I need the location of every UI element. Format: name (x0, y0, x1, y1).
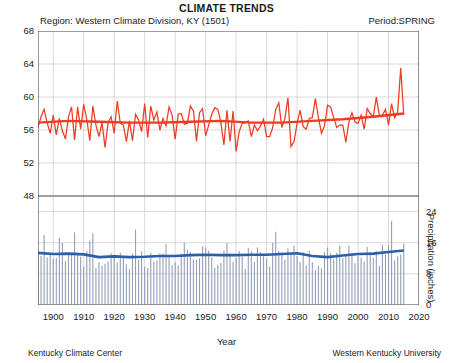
footer-right: Western Kentucky University (333, 348, 442, 358)
x-axis-label: Year (0, 336, 453, 347)
climate-trends-chart (38, 31, 419, 305)
region-label: Region: Western Climate Division, KY (15… (40, 15, 229, 26)
y-tick-precip-16: 16 (426, 237, 450, 248)
y-tick-temp-52: 52 (8, 157, 34, 168)
y-tick-temp-56: 56 (8, 124, 34, 135)
y-tick-precip-8: 8 (426, 268, 450, 279)
footer-left: Kentucky Climate Center (28, 348, 122, 358)
y-tick-precip-24: 24 (426, 206, 450, 217)
y-tick-temp-64: 64 (8, 58, 34, 69)
chart-canvas (38, 31, 419, 305)
y-tick-temp-60: 60 (8, 91, 34, 102)
x-tick-2020: 2020 (399, 311, 439, 322)
y-tick-precip-0: 0 (426, 299, 450, 310)
period-label: Period:SPRING (368, 15, 435, 26)
y-tick-temp-68: 68 (8, 25, 34, 36)
page-title: CLIMATE TRENDS (0, 2, 453, 14)
y-tick-temp-48: 48 (8, 190, 34, 201)
